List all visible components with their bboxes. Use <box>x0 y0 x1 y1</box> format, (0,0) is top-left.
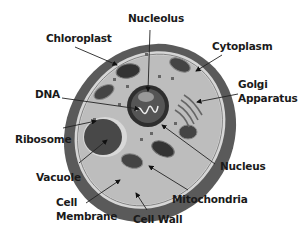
label-ribosome: Ribosome <box>15 133 71 146</box>
label-cell-membrane-line1: Cell <box>56 196 77 209</box>
label-chloroplast: Chloroplast <box>46 32 112 45</box>
label-cell-membrane-line2: Membrane <box>56 210 117 223</box>
label-dna: DNA <box>35 88 60 101</box>
label-golgi-line2: Apparatus <box>238 92 297 105</box>
vacuole <box>83 117 127 157</box>
nucleus <box>127 85 169 127</box>
label-nucleus: Nucleus <box>220 160 266 173</box>
label-vacuole: Vacuole <box>36 171 81 184</box>
label-cell-wall: Cell Wall <box>133 213 182 226</box>
label-cytoplasm: Cytoplasm <box>212 40 272 53</box>
label-mitochondria: Mitochondria <box>172 193 248 206</box>
label-golgi-line1: Golgi <box>238 78 268 91</box>
label-nucleolus: Nucleolus <box>128 12 184 25</box>
